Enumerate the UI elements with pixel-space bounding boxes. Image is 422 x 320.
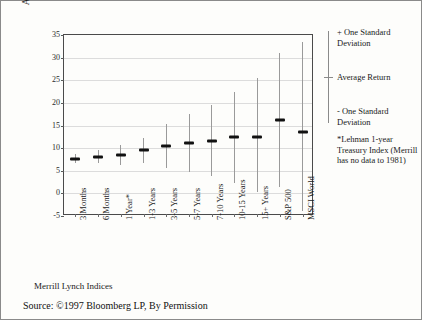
mean-marker: [207, 139, 217, 142]
source-text: Source: ©1997 Bloomberg LP, By Permissio…: [23, 300, 208, 311]
x-tick-label: 7-10 Years: [215, 184, 225, 220]
x-tick-label: 3-5 Years: [169, 188, 179, 220]
legend-item-minus-sd: - One Standard Deviation: [337, 106, 421, 127]
y-tick: [61, 148, 64, 149]
x-tick-label: 5-7 Years: [192, 188, 202, 220]
mean-marker: [252, 135, 262, 138]
y-tick: [61, 80, 64, 81]
gridline: [64, 80, 312, 81]
mean-marker: [184, 142, 194, 145]
legend-mean-marker-icon: [324, 77, 333, 78]
mean-marker: [298, 130, 308, 133]
legend-item-plus-sd: + One Standard Deviation: [337, 27, 421, 48]
x-axis-title: Merrill Lynch Indices: [34, 281, 112, 291]
footnote-text: *Lehman 1-year Treasury Index (Merrill h…: [337, 134, 422, 166]
x-tick-label: 15+ Years: [260, 186, 270, 220]
y-tick: [61, 171, 64, 172]
x-tick-label: 1 Year*: [124, 194, 134, 220]
y-tick-label: 30: [52, 54, 60, 62]
mean-marker: [275, 118, 285, 121]
y-tick: [61, 216, 64, 217]
x-tick: [98, 214, 99, 217]
x-tick: [166, 214, 167, 217]
y-tick: [61, 58, 64, 59]
error-bar-whisker: [302, 42, 303, 212]
x-tick-label: 1-3 Years: [147, 188, 157, 220]
x-tick: [144, 214, 145, 217]
x-tick: [121, 214, 122, 217]
x-tick: [212, 214, 213, 217]
x-tick-label: MSCI World: [306, 176, 316, 220]
x-tick-label: 3 Months: [78, 188, 88, 220]
x-tick: [234, 214, 235, 217]
y-tick-label: 25: [52, 76, 60, 84]
mean-marker: [229, 136, 239, 139]
y-tick: [61, 103, 64, 104]
mean-marker: [116, 153, 126, 156]
y-tick-label: 5: [56, 167, 60, 175]
mean-marker: [93, 156, 103, 159]
x-tick-label: 10-15 Years: [237, 179, 247, 220]
y-tick-label: 15: [52, 122, 60, 130]
x-tick: [257, 214, 258, 217]
x-tick: [280, 214, 281, 217]
y-tick-label: 35: [52, 31, 60, 39]
x-tick-label: S&P 500: [283, 189, 293, 220]
x-tick: [303, 214, 304, 217]
y-tick: [61, 193, 64, 194]
y-tick-label: 0: [56, 189, 60, 197]
gridline: [64, 103, 312, 104]
y-tick-label: 20: [52, 99, 60, 107]
chart-figure: Annualized Quarterly Return (%) 35302520…: [0, 0, 422, 320]
y-axis-title: Annualized Quarterly Return (%): [21, 0, 31, 33]
x-tick: [75, 214, 76, 217]
y-tick: [61, 126, 64, 127]
y-tick-label: 10: [52, 144, 60, 152]
x-tick-label: 6 Months: [101, 188, 111, 220]
y-tick-label: -5: [53, 212, 60, 220]
x-tick: [189, 214, 190, 217]
mean-marker: [161, 144, 171, 147]
mean-marker: [70, 157, 80, 160]
legend-item-average: Average Return: [337, 72, 421, 83]
gridline: [64, 58, 312, 59]
mean-marker: [139, 149, 149, 152]
y-tick: [61, 35, 64, 36]
